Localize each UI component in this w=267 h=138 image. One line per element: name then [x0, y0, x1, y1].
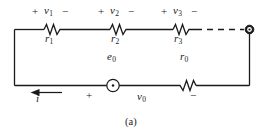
resistor-r3-subscript: 3 — [178, 37, 182, 46]
terminal-node-dot — [248, 28, 250, 30]
source-label-e0: e0 — [107, 51, 116, 64]
resistor-r0-subscript: 0 — [184, 55, 188, 64]
resistor-r1-subscript: 1 — [49, 37, 53, 46]
polarity-minus-v2: − — [128, 6, 134, 17]
resistor-label-r0: r0 — [180, 51, 188, 64]
polarity-minus-v1: − — [62, 6, 68, 17]
polarity-plus-v0: + — [86, 90, 92, 101]
resistor-label-r2: r2 — [111, 33, 119, 46]
voltage-label-v0: v0 — [137, 91, 146, 104]
resistor-label-r1: r1 — [45, 33, 53, 46]
voltage-label-v2: v2 — [110, 5, 119, 18]
polarity-minus-v0: − — [190, 90, 196, 101]
source-e0-subscript: 0 — [112, 55, 116, 64]
voltage-v3-subscript: 3 — [178, 9, 182, 18]
polarity-plus-v1: + — [32, 6, 38, 17]
voltage-label-v3: v3 — [173, 5, 182, 18]
voltage-label-v1: v1 — [44, 5, 53, 18]
voltage-v2-subscript: 2 — [115, 9, 119, 18]
resistor-r2-subscript: 2 — [115, 37, 119, 46]
resistor-label-r3: r3 — [174, 33, 182, 46]
current-label-i: i — [36, 93, 39, 104]
voltage-v1-subscript: 1 — [49, 9, 53, 18]
polarity-plus-v2: + — [98, 6, 104, 17]
polarity-minus-v3: − — [191, 6, 197, 17]
polarity-plus-v3: + — [161, 6, 167, 17]
voltage-v0-subscript: 0 — [142, 95, 146, 104]
figure-caption: (a) — [125, 117, 137, 128]
source-e0-dot — [112, 84, 115, 87]
